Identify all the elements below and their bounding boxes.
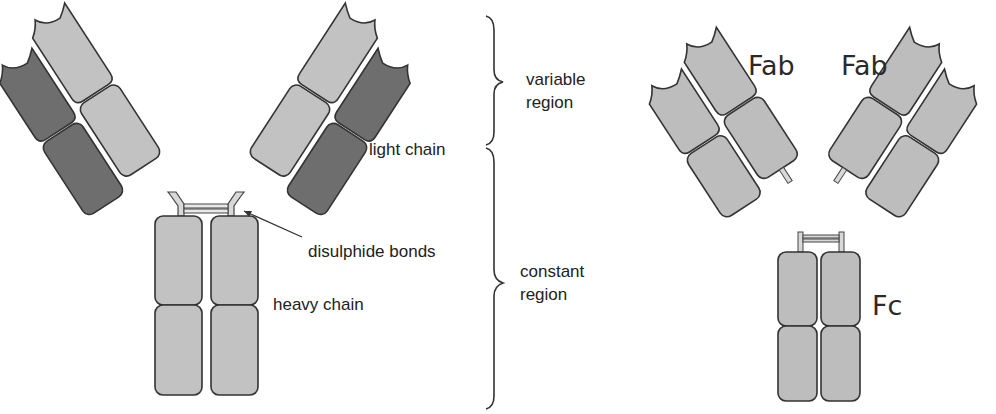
constant-region-label-line2: region bbox=[520, 285, 567, 305]
fragments bbox=[633, 26, 993, 401]
intact-antibody bbox=[0, 1, 503, 409]
right-arm bbox=[241, 1, 429, 217]
fc-label: Fc bbox=[872, 290, 902, 322]
constant-region-label-line1: constant bbox=[520, 262, 584, 282]
heavy-chain-label: heavy chain bbox=[273, 295, 364, 315]
variable-region-label-line2: region bbox=[526, 93, 573, 113]
fc-fragment bbox=[778, 232, 860, 401]
fab-left-label: Fab bbox=[748, 50, 795, 82]
variable-region-brace bbox=[486, 16, 503, 145]
disulphide-bonds bbox=[184, 204, 228, 213]
variable-region-label-line1: variable bbox=[526, 70, 586, 90]
left-arm bbox=[0, 1, 169, 217]
constant-region-brace bbox=[486, 148, 503, 409]
heavy-chain-constant bbox=[155, 216, 258, 395]
disulphide-bonds-label: disulphide bonds bbox=[308, 242, 436, 262]
light-chain-label: light chain bbox=[369, 140, 446, 160]
fab-right-label: Fab bbox=[841, 50, 888, 82]
